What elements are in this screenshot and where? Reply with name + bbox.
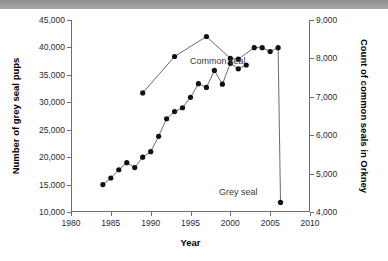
data-point	[252, 45, 257, 50]
y-axis-left-tick-label: 30,000	[39, 97, 65, 107]
y-axis-left-tick-label: 20,000	[39, 152, 65, 162]
series-label-common-seal: Common seal	[190, 56, 246, 66]
y-axis-left-tick-label: 15,000	[39, 180, 65, 190]
x-axis-title: Year	[71, 237, 310, 248]
x-axis-tick	[151, 212, 152, 216]
y-axis-right-tick	[310, 20, 314, 21]
data-series-layer	[71, 20, 310, 212]
data-point	[140, 90, 145, 95]
data-point	[156, 134, 161, 139]
y-axis-right-tick	[310, 97, 314, 98]
x-axis-tick	[270, 212, 271, 216]
y-axis-right-tick	[310, 174, 314, 175]
y-axis-right-tick-label: 5,000	[316, 169, 337, 179]
data-point	[164, 116, 169, 121]
data-point	[220, 82, 225, 87]
data-point	[268, 49, 273, 54]
data-point	[204, 85, 209, 90]
data-point	[100, 182, 105, 187]
x-axis-tick-label: 2005	[261, 218, 280, 228]
x-axis-tick-label: 2010	[301, 218, 320, 228]
y-axis-right-tick-label: 7,000	[316, 92, 337, 102]
series-label-grey-seal: Grey seal	[219, 187, 258, 197]
y-axis-left-title: Number of grey seal pups	[8, 20, 22, 212]
y-axis-right-tick	[310, 58, 314, 59]
y-axis-right-tick	[310, 135, 314, 136]
top-banner-bar: · · ·	[0, 0, 388, 9]
x-axis-tick-label: 1980	[62, 218, 81, 228]
x-axis-tick	[71, 212, 72, 216]
y-axis-right-tick-label: 6,000	[316, 130, 337, 140]
data-point	[116, 167, 121, 172]
data-point	[148, 149, 153, 154]
data-point	[278, 200, 283, 205]
data-point	[276, 45, 281, 50]
x-axis-tick-label: 2000	[221, 218, 240, 228]
data-point	[236, 66, 241, 71]
data-point	[260, 45, 265, 50]
data-point	[132, 165, 137, 170]
x-axis-tick	[310, 212, 311, 216]
plot-area: 10,00015,00020,00025,00030,00035,00040,0…	[71, 20, 310, 212]
y-axis-left-tick-label: 25,000	[39, 125, 65, 135]
y-axis-right-tick-label: 8,000	[316, 53, 337, 63]
data-point	[180, 105, 185, 110]
data-point	[172, 109, 177, 114]
x-axis-tick	[230, 212, 231, 216]
x-axis-tick-label: 1990	[141, 218, 160, 228]
chart-figure: Number of grey seal pups Count of common…	[0, 9, 388, 261]
series-line-grey-seal	[103, 63, 246, 184]
y-axis-left-tick-label: 10,000	[39, 207, 65, 217]
data-point	[172, 54, 177, 59]
data-point	[212, 68, 217, 73]
data-point	[188, 95, 193, 100]
data-point	[108, 175, 113, 180]
x-axis-tick-label: 1985	[101, 218, 120, 228]
y-axis-left-tick-label: 45,000	[39, 15, 65, 25]
data-point	[204, 34, 209, 39]
x-axis-tick	[191, 212, 192, 216]
y-axis-right-title: Count of common seals in Orkney	[358, 20, 372, 212]
y-axis-right-tick-label: 4,000	[316, 207, 337, 217]
data-point	[196, 81, 201, 86]
x-axis-tick	[111, 212, 112, 216]
x-axis-tick-label: 1995	[181, 218, 200, 228]
y-axis-right-tick-label: 9,000	[316, 15, 337, 25]
data-point	[124, 160, 129, 165]
y-axis-left-tick-label: 35,000	[39, 70, 65, 80]
data-point	[140, 155, 145, 160]
y-axis-left-tick-label: 40,000	[39, 42, 65, 52]
banner-faint-text: · · ·	[337, 0, 352, 8]
